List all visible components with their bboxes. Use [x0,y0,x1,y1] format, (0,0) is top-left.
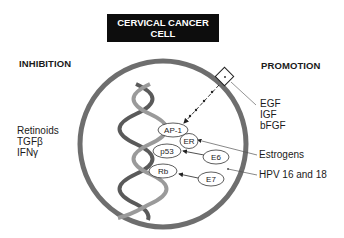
svg-text:Rb: Rb [158,167,169,176]
node-rb: Rb [149,164,177,178]
svg-text:E6: E6 [211,153,221,162]
cell-diagram: AP-1 ER p53 E6 Rb E7 [0,0,344,238]
e7-to-rb-arrow [179,174,198,178]
node-e6: E6 [203,150,229,164]
signal-arrow [184,85,219,123]
node-p53: p53 [153,144,181,158]
svg-text:AP-1: AP-1 [164,126,182,135]
svg-text:ER: ER [183,137,194,146]
node-e7: E7 [198,172,224,186]
svg-text:p53: p53 [160,147,174,156]
e6-to-p53-arrow [183,151,204,155]
node-er: ER [180,134,198,149]
svg-text:E7: E7 [206,175,216,184]
